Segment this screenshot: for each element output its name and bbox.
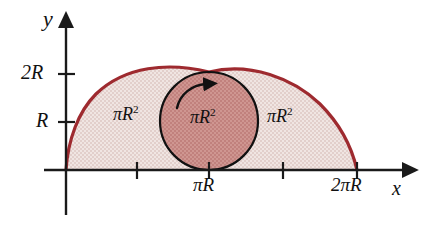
area-label-circle-exponent: 2: [210, 106, 216, 118]
y-tick-label-2r: 2R: [21, 62, 43, 82]
area-label-left-base: πR: [113, 104, 133, 124]
area-label-circle-base: πR: [190, 107, 210, 127]
area-label-right-exponent: 2: [287, 105, 293, 117]
y-axis-label: y: [43, 8, 53, 30]
area-label-left: πR2: [113, 105, 139, 123]
area-label-right-base: πR: [267, 106, 287, 126]
cycloid-figure: y x 2R R πR 2πR πR2 πR2 πR2: [0, 0, 435, 229]
area-label-right: πR2: [267, 107, 293, 125]
figure-canvas: [0, 0, 435, 229]
area-label-left-exponent: 2: [133, 103, 139, 115]
x-axis-label: x: [392, 178, 401, 198]
area-label-circle: πR2: [190, 108, 216, 126]
x-tick-label-2pir: 2πR: [331, 175, 362, 194]
x-tick-label-pir: πR: [193, 175, 214, 194]
y-tick-label-r: R: [36, 110, 48, 130]
